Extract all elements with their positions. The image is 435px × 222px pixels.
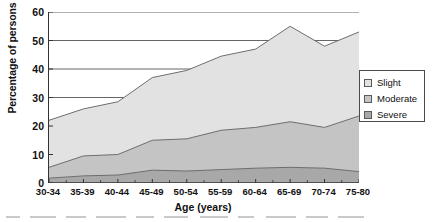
x-tick-label: 60-64	[243, 186, 267, 197]
x-tick-label: 75-80	[346, 186, 370, 197]
x-tick-label: 70-74	[311, 186, 335, 197]
scan-artifact	[338, 216, 364, 218]
y-tick-label: 60	[32, 6, 44, 18]
x-axis-title: Age (years)	[48, 201, 358, 213]
x-tick-label: 55-59	[208, 186, 232, 197]
scan-artifact	[200, 216, 228, 218]
chart-figure: Percentage of persons 0102030405060 30-3…	[0, 0, 435, 222]
scan-artifact	[266, 216, 296, 218]
x-axis-tick-labels: 30-3435-3940-4445-4950-5455-5960-6465-69…	[48, 186, 358, 202]
scan-artifact	[6, 216, 20, 218]
x-tick-label: 45-49	[139, 186, 163, 197]
y-tick-label: 20	[32, 120, 44, 132]
scan-artifact	[136, 216, 154, 218]
chart-legend: SlightModerateSevere	[359, 70, 425, 122]
y-tick-label: 40	[32, 63, 44, 75]
x-tick-label: 30-34	[36, 186, 60, 197]
scan-artifact	[30, 216, 56, 218]
y-tick-label: 50	[32, 35, 44, 47]
plot-area	[48, 12, 358, 183]
y-tick-label: 30	[32, 92, 44, 104]
x-tick-label: 50-54	[174, 186, 198, 197]
scan-artifact	[66, 216, 86, 218]
legend-item-label: Slight	[377, 78, 401, 88]
legend-swatch-icon	[364, 95, 372, 103]
legend-swatch-icon	[364, 79, 372, 87]
scan-artifact	[164, 216, 188, 218]
legend-item[interactable]: Slight	[364, 75, 424, 90]
legend-swatch-icon	[364, 111, 372, 119]
stacked-area-svg	[49, 12, 359, 183]
legend-item[interactable]: Severe	[364, 107, 424, 122]
y-tick-label: 10	[32, 149, 44, 161]
x-tick-label: 65-69	[277, 186, 301, 197]
x-tick-label: 35-39	[70, 186, 94, 197]
x-tick-label: 40-44	[105, 186, 129, 197]
legend-item-label: Moderate	[377, 94, 417, 104]
legend-item-label: Severe	[377, 110, 407, 120]
legend-item[interactable]: Moderate	[364, 91, 424, 106]
y-axis-title: Percentage of persons	[6, 0, 18, 133]
scan-artifact	[96, 216, 126, 218]
scan-artifact	[238, 216, 254, 218]
scan-artifact	[306, 216, 328, 218]
